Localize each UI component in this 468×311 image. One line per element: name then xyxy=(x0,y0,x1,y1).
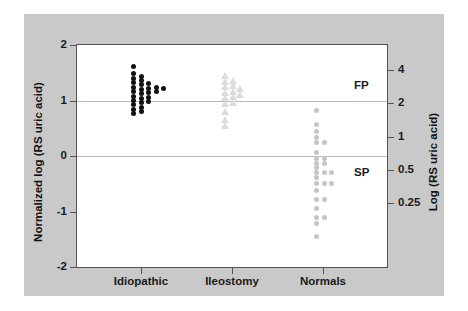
y-axis-right-tick-mark xyxy=(388,70,394,71)
y-axis-left-tick-mark xyxy=(70,101,76,102)
data-point-idiopathic xyxy=(139,109,144,114)
annotation-fp: FP xyxy=(354,80,369,92)
y-axis-left-tick-label: -1 xyxy=(40,206,67,218)
data-point-normals xyxy=(314,215,319,220)
axis-spine-top xyxy=(76,44,388,45)
data-point-normals xyxy=(322,161,327,166)
data-point-normals xyxy=(322,181,327,186)
data-point-ileostomy xyxy=(236,91,244,98)
x-axis-tick-mark xyxy=(323,268,324,274)
data-point-normals xyxy=(322,170,327,175)
data-point-normals xyxy=(314,197,319,202)
data-point-ileostomy xyxy=(221,122,229,129)
data-point-normals xyxy=(314,175,319,180)
y-axis-right-tick-mark xyxy=(388,170,394,171)
y-axis-left-tick-label: 0 xyxy=(40,150,67,162)
figure-root: 210-1-2 4210.50.25 IdiopathicIleostomyNo… xyxy=(0,0,468,311)
y-axis-right-tick-mark xyxy=(388,103,394,104)
x-axis-tick-mark xyxy=(232,268,233,274)
y-axis-left-title: Normalized log (RS uric acid) xyxy=(32,62,44,262)
y-axis-right-tick-mark xyxy=(388,203,394,204)
data-point-normals xyxy=(322,156,327,161)
data-point-normals xyxy=(322,140,327,145)
x-axis-tick-label: Normals xyxy=(268,276,378,288)
y-axis-right-title: Log (RS uric acid) xyxy=(427,62,439,262)
data-point-idiopathic xyxy=(154,89,159,94)
data-point-ileostomy xyxy=(221,108,229,115)
x-axis-tick-mark xyxy=(141,268,142,274)
data-point-normals xyxy=(314,135,319,140)
annotation-sp: SP xyxy=(354,167,369,179)
y-axis-left-tick-mark xyxy=(70,267,76,268)
y-axis-left-tick-label: -2 xyxy=(40,261,67,273)
gridline-y-0 xyxy=(77,156,387,157)
data-point-idiopathic xyxy=(131,64,136,69)
axis-spine-right xyxy=(387,45,388,268)
data-point-normals xyxy=(314,156,319,161)
data-point-normals xyxy=(322,197,327,202)
y-axis-left-tick-mark xyxy=(70,45,76,46)
y-axis-left-tick-mark xyxy=(70,212,76,213)
y-axis-left-tick-label: 1 xyxy=(40,95,67,107)
y-axis-right-tick-mark xyxy=(388,137,394,138)
data-point-ileostomy xyxy=(229,99,237,106)
y-axis-left-tick-label: 2 xyxy=(40,39,67,51)
y-axis-left-tick-mark xyxy=(70,156,76,157)
data-point-normals xyxy=(322,215,327,220)
